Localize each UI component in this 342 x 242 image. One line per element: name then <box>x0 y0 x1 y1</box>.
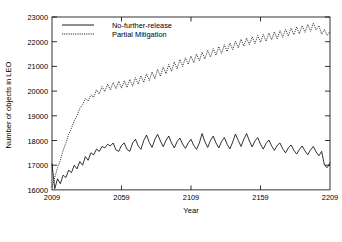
x-tick-label: 2059 <box>113 193 129 202</box>
x-axis-tick-labels: 2009 2059 2109 2159 2209 <box>44 193 338 202</box>
chart-figure: 23000 22000 21000 20000 19000 18000 1700… <box>0 0 342 242</box>
x-axis-title: Year <box>183 206 199 215</box>
plot-frame <box>52 17 330 190</box>
y-axis-title: Number of objects in LEO <box>4 61 13 148</box>
x-tick-label: 2209 <box>322 193 338 202</box>
legend-label-no-further-release: No-further-release <box>112 21 172 30</box>
y-tick-label: 17000 <box>27 161 48 170</box>
y-tick-label: 23000 <box>27 13 48 22</box>
line-chart: 23000 22000 21000 20000 19000 18000 1700… <box>0 0 342 242</box>
series-line-no-further-release <box>52 134 330 189</box>
y-tick-label: 18000 <box>27 137 48 146</box>
x-tick-label: 2109 <box>183 193 199 202</box>
x-tick-label: 2159 <box>252 193 268 202</box>
x-axis-tickmarks <box>122 17 261 190</box>
y-tick-label: 22000 <box>27 38 48 47</box>
series-line-partial-mitigation <box>52 23 330 187</box>
y-axis-tickmarks <box>52 17 330 165</box>
legend: No-further-release Partial Mitigation <box>62 21 172 39</box>
y-tick-label: 21000 <box>27 62 48 71</box>
y-tick-label: 19000 <box>27 112 48 121</box>
y-tick-label: 20000 <box>27 87 48 96</box>
legend-label-partial-mitigation: Partial Mitigation <box>112 30 167 39</box>
x-tick-label: 2009 <box>44 193 60 202</box>
y-axis-tick-labels: 23000 22000 21000 20000 19000 18000 1700… <box>27 13 48 195</box>
